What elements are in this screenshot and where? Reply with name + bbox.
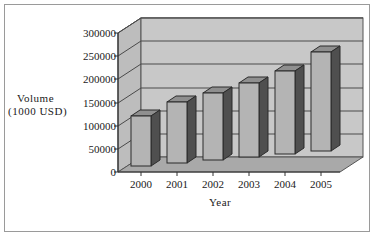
bar-side-face — [187, 96, 196, 163]
y-axis-title-line1: Volume — [17, 92, 54, 104]
bar-2003[interactable] — [239, 77, 268, 157]
bar-side-face — [151, 110, 160, 166]
bar-front-face — [311, 52, 331, 151]
bar-2000[interactable] — [131, 110, 160, 166]
x-axis-title: Year — [209, 196, 231, 208]
x-tick-marks — [141, 172, 321, 176]
x-tick-label-2002: 2002 — [193, 179, 233, 190]
bar-2001[interactable] — [167, 96, 196, 163]
bar-side-face — [331, 46, 340, 151]
bar-side-face — [223, 87, 232, 160]
bar-front-face — [167, 102, 187, 163]
x-tick-label-2001: 2001 — [157, 179, 197, 190]
x-tick-label-2004: 2004 — [265, 179, 305, 190]
bar-front-face — [239, 83, 259, 157]
x-tick-label-2005: 2005 — [301, 179, 341, 190]
x-tick-label-2000: 2000 — [121, 179, 161, 190]
bar-side-face — [295, 65, 304, 154]
bar-2004[interactable] — [275, 65, 304, 154]
bar-front-face — [131, 116, 151, 166]
y-axis-title-line2: (1000 USD) — [8, 105, 67, 117]
bar-chart-plot — [0, 0, 376, 238]
x-tick-label-2003: 2003 — [229, 179, 269, 190]
chart-figure: 0 50000 100000 150000 200000 250000 3000… — [0, 0, 376, 238]
bar-side-face — [259, 77, 268, 157]
bar-front-face — [275, 71, 295, 154]
bar-front-face — [203, 93, 223, 160]
bar-2005[interactable] — [311, 46, 340, 151]
bar-2002[interactable] — [203, 87, 232, 160]
